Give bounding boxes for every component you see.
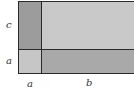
label-c-left: c [6, 20, 12, 30]
horizontal-divider [18, 49, 134, 50]
label-b-bottom: b [86, 78, 92, 88]
vertical-divider [41, 1, 42, 74]
outer-border [18, 1, 134, 74]
rectangle-area-diagram: c a a b [0, 0, 134, 99]
label-a-bottom: a [27, 79, 33, 89]
label-a-left: a [6, 56, 12, 66]
